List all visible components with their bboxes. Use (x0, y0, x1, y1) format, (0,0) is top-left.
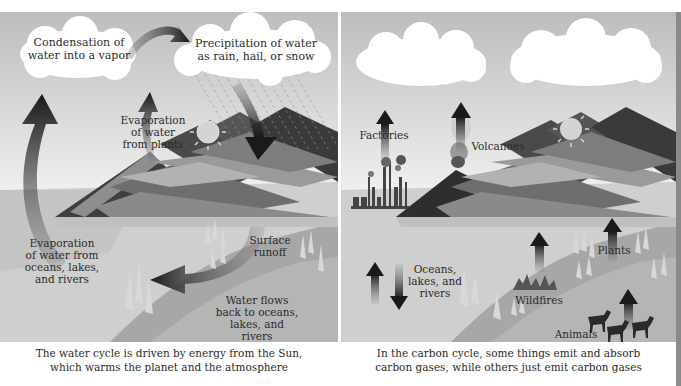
surface-runoff-line2: runoff (236, 246, 304, 258)
evaporation-plants-line1: Evaporation (108, 114, 198, 126)
evaporation-plants-line3: from plants (108, 138, 198, 150)
wildfires-label: Wildfires (511, 294, 567, 306)
water-flows-back-line3: lakes, and (212, 318, 302, 330)
oceans-label-line1: Oceans, (405, 263, 465, 275)
water-flows-back-line2: back to oceans, (212, 306, 302, 318)
volcanoes-label: Volcanoes (467, 140, 529, 152)
precipitation-label-line2: as rain, hail, or snow (186, 50, 326, 63)
evaporation-oceans-line1: Evaporation (18, 237, 106, 249)
oceans-label: Oceans, lakes, and rivers (405, 263, 465, 299)
water-cycle-caption-line1: The water cycle is driven by energy from… (0, 346, 338, 360)
carbon-cycle-illustration (341, 12, 676, 342)
carbon-cycle-caption-line1: In the carbon cycle, some things emit an… (341, 346, 676, 360)
plants-label: Plants (596, 244, 632, 256)
oceans-label-line2: lakes, and (405, 275, 465, 287)
water-flows-back-line4: rivers (212, 330, 302, 342)
evaporation-oceans-label: Evaporation of water from oceans, lakes,… (18, 237, 106, 285)
evaporation-plants-label: Evaporation of water from plants (108, 114, 198, 150)
water-cycle-panel: Condensation of water into a vapor Preci… (0, 12, 338, 342)
oceans-label-line3: rivers (405, 287, 465, 299)
right-edge-border (676, 12, 681, 386)
evaporation-oceans-line3: oceans, lakes, (18, 261, 106, 273)
carbon-cycle-caption: In the carbon cycle, some things emit an… (341, 346, 676, 374)
evaporation-plants-line2: of water (108, 126, 198, 138)
condensation-label-line1: Condensation of (20, 36, 138, 49)
surface-runoff-line1: Surface (236, 234, 304, 246)
precipitation-label-line1: Precipitation of water (186, 37, 326, 50)
surface-runoff-label: Surface runoff (236, 234, 304, 258)
factories-label: Factories (359, 129, 409, 141)
evaporation-oceans-line4: and rivers (18, 273, 106, 285)
precipitation-label: Precipitation of water as rain, hail, or… (186, 37, 326, 63)
water-cycle-caption-line2: which warms the planet and the atmospher… (0, 360, 338, 374)
condensation-label-line2: water into a vapor (20, 49, 138, 62)
panel-divider (338, 12, 341, 386)
carbon-cycle-panel: Factories Volcanoes Plants Oceans, lakes… (341, 12, 676, 342)
water-flows-back-line1: Water flows (212, 294, 302, 306)
carbon-cycle-caption-line2: carbon gases, while others just emit car… (341, 360, 676, 374)
water-flows-back-label: Water flows back to oceans, lakes, and r… (212, 294, 302, 342)
condensation-label: Condensation of water into a vapor (20, 36, 138, 62)
water-cycle-caption: The water cycle is driven by energy from… (0, 346, 338, 374)
animals-label: Animals (553, 328, 599, 340)
evaporation-oceans-line2: of water from (18, 249, 106, 261)
